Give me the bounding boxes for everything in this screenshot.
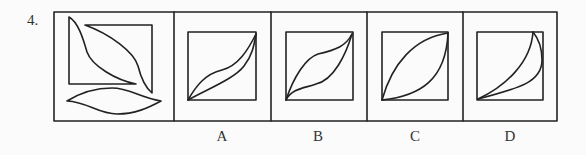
option-label-b: B: [308, 128, 328, 145]
option-d-curve-outer: [478, 32, 542, 99]
option-a-curve-upper: [188, 34, 256, 100]
option-a-figure: [188, 32, 256, 100]
option-label-a: A: [212, 128, 232, 145]
option-a-square: [188, 32, 256, 100]
puzzle-figure: [0, 0, 586, 155]
option-d-curve-inner: [478, 32, 533, 99]
stem-piece-1: [69, 17, 136, 84]
option-label-d: D: [500, 128, 520, 145]
option-b-figure: [286, 32, 353, 100]
option-c-curve-upper: [382, 33, 448, 100]
option-a-curve-lower: [188, 34, 256, 100]
stem-piece-2: [85, 25, 152, 93]
option-c-curve-lower: [382, 33, 448, 100]
option-c-square: [382, 32, 448, 100]
outer-frame: [54, 12, 557, 121]
option-c-figure: [382, 32, 448, 100]
option-b-curve-lower: [286, 34, 352, 100]
option-label-c: C: [405, 128, 425, 145]
stem-piece-leaf: [67, 88, 161, 114]
option-d-figure: [477, 32, 543, 100]
stem-panel: [67, 17, 161, 114]
